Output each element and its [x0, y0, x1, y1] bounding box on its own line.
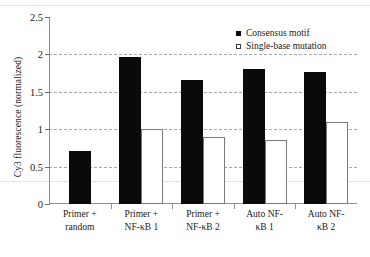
x-tick-label-line: Primer +: [49, 208, 111, 221]
bar-consensus-motif: [69, 151, 91, 204]
x-tick-label: Primer +NF-κB 1: [111, 208, 173, 233]
bar-single-base-mutation: [141, 129, 163, 204]
y-tick-label: 0.5: [30, 161, 43, 172]
scan-artifact-line: [0, 5, 370, 6]
bar-consensus-motif: [119, 57, 141, 204]
x-tick-label: Auto NF-κB 2: [295, 208, 357, 233]
x-tick-label-line: NF-κB 2: [172, 221, 234, 234]
x-tick-label-line: NF-κB 1: [111, 221, 173, 234]
bar-consensus-motif: [243, 69, 265, 204]
x-tick-label-line: Auto NF-: [234, 208, 296, 221]
bar-group: [49, 17, 111, 204]
x-tick-label-line: Primer +: [111, 208, 173, 221]
x-tick-label-line: Auto NF-: [295, 208, 357, 221]
y-tick-mark: [45, 204, 50, 205]
bar-single-base-mutation: [203, 137, 225, 204]
bar-consensus-motif: [304, 72, 326, 204]
x-tick-label-line: random: [49, 221, 111, 234]
legend-label: Single-base mutation: [246, 40, 326, 53]
bar-single-base-mutation: [326, 122, 348, 204]
legend-entry: Consensus motif: [236, 27, 326, 40]
bar-chart-figure: Cy3 fluorescence (normalized) 00.511.522…: [0, 0, 370, 257]
bar-group: [111, 17, 173, 204]
y-tick-label: 2.5: [30, 12, 43, 23]
filled-square-icon: [236, 31, 241, 36]
x-axis-tick-labels: Primer +randomPrimer +NF-κB 1Primer +NF-…: [49, 208, 357, 252]
y-axis-label: Cy3 fluorescence (normalized): [13, 32, 23, 202]
bar-consensus-motif: [181, 80, 203, 204]
open-square-icon: [236, 44, 241, 49]
x-tick-label-line: κB 1: [234, 221, 296, 234]
x-tick-label-line: Primer +: [172, 208, 234, 221]
x-tick-label: Primer +NF-κB 2: [172, 208, 234, 233]
bar-single-base-mutation: [265, 140, 287, 204]
y-tick-label: 1.5: [30, 86, 43, 97]
legend-entry: Single-base mutation: [236, 40, 326, 53]
legend-label: Consensus motif: [246, 27, 310, 40]
x-tick-label: Auto NF-κB 1: [234, 208, 296, 233]
y-tick-label: 2: [38, 49, 43, 60]
chart-legend: Consensus motifSingle-base mutation: [236, 27, 326, 53]
x-tick-label: Primer +random: [49, 208, 111, 233]
y-tick-label: 1: [38, 124, 43, 135]
bar-group: [172, 17, 234, 204]
y-tick-label: 0: [38, 199, 43, 210]
x-tick-label-line: κB 2: [295, 221, 357, 234]
